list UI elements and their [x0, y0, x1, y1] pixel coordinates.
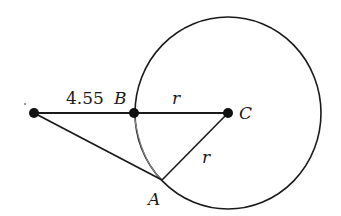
label-r-CA: r	[202, 147, 211, 167]
tangent-segment-external-to-A	[34, 113, 162, 180]
point-C	[223, 108, 233, 118]
label-C: C	[239, 103, 252, 123]
label-r-BC: r	[172, 88, 181, 108]
point-external	[29, 108, 39, 118]
label-A: A	[146, 189, 160, 209]
speck	[24, 103, 26, 105]
label-B: B	[113, 88, 127, 108]
arc-highlight	[134, 113, 162, 180]
diagram-canvas: 4.55 B r C r A	[0, 0, 341, 216]
radius-C-to-A	[162, 113, 228, 180]
tangent-secant-diagram: 4.55 B r C r A	[0, 0, 341, 216]
label-length-4-55: 4.55	[66, 88, 104, 108]
point-B	[129, 108, 139, 118]
